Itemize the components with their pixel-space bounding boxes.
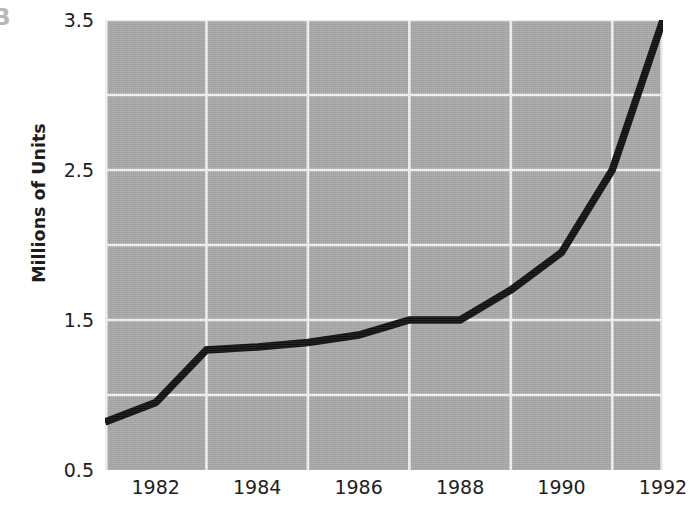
- x-tick-label: 1992: [623, 478, 690, 497]
- x-tick-label: 1982: [116, 478, 196, 497]
- x-tick-label: 1988: [420, 478, 500, 497]
- x-tick-label: 1990: [522, 478, 602, 497]
- plot-svg: [105, 20, 663, 470]
- data-series-line: [105, 20, 663, 422]
- panel-letter: B: [0, 6, 11, 29]
- plot-area: [105, 20, 663, 470]
- horizontal-gridlines: [105, 20, 663, 395]
- x-tick-label: 1984: [217, 478, 297, 497]
- x-axis-tick-labels: 198219841986198819901992: [0, 478, 680, 508]
- y-axis-tick-labels: 0.51.52.53.5: [28, 0, 94, 522]
- y-tick-label: 1.5: [32, 311, 94, 330]
- y-tick-label: 3.5: [32, 11, 94, 30]
- y-tick-label: 2.5: [32, 161, 94, 180]
- x-tick-label: 1986: [319, 478, 399, 497]
